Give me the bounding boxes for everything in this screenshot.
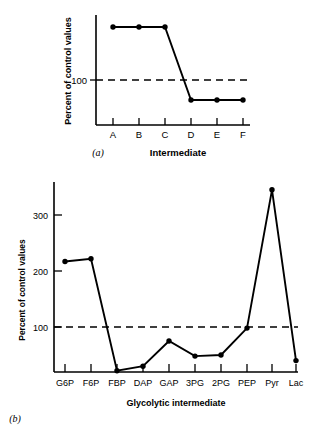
panel-a-label: (a): [92, 147, 104, 159]
panel-b-x-axis-title: Glycolytic intermediate: [126, 398, 225, 408]
panel-b-ytick-label-300: 300: [33, 211, 48, 221]
panel-a-data-point: [162, 24, 167, 29]
panel-b-data-point: [269, 187, 274, 192]
panel-b-xtick-label-PEP: PEP: [238, 378, 256, 388]
panel-b-xtick-label-G6P: G6P: [56, 378, 74, 388]
panel-a-data-point: [110, 24, 115, 29]
panel-a-data-line: [113, 27, 243, 100]
panel-a-xtick-label-B: B: [136, 129, 142, 140]
panel-a-x-axis-title: Intermediate: [150, 147, 207, 158]
panel-b-svg: Percent of control values 300 200 100: [0, 170, 323, 426]
panel-a-xtick-label-F: F: [240, 129, 246, 140]
chart-panel-b: Percent of control values 300 200 100: [0, 170, 323, 426]
panel-b-data-point: [140, 364, 145, 369]
panel-a-xtick-label-D: D: [188, 129, 195, 140]
panel-b-xtick-label-GAP: GAP: [159, 378, 178, 388]
panel-a-data-point: [214, 97, 219, 102]
chart-panel-a: Percent of control values 100 A B C D E …: [0, 0, 323, 170]
panel-a-svg: Percent of control values 100 A B C D E …: [0, 0, 323, 170]
panel-b-xtick-label-Lac: Lac: [289, 378, 304, 388]
panel-b-data-point: [244, 325, 249, 330]
panel-b-ytick-label-200: 200: [33, 267, 48, 277]
panel-a-data-point: [240, 97, 245, 102]
panel-b-ytick-label-100: 100: [33, 323, 48, 333]
panel-b-xtick-label-2PG: 2PG: [212, 378, 230, 388]
panel-b-data-point: [293, 358, 298, 363]
panel-a-ytick-label-100: 100: [71, 75, 87, 86]
panel-a-data-point: [136, 24, 141, 29]
panel-b-data-point: [192, 353, 197, 358]
panel-b-data-line: [65, 190, 296, 371]
figure-container: Percent of control values 100 A B C D E …: [0, 0, 323, 426]
panel-b-data-point: [88, 256, 93, 261]
panel-b-label: (b): [9, 413, 21, 425]
panel-b-xtick-label-DAP: DAP: [134, 378, 153, 388]
panel-a-xtick-label-C: C: [162, 129, 169, 140]
panel-b-xtick-label-F6P: F6P: [83, 378, 100, 388]
panel-a-data-point: [188, 97, 193, 102]
panel-a-y-axis-title: Percent of control values: [63, 17, 73, 125]
panel-b-data-point: [166, 338, 171, 343]
panel-b-xtick-label-Pyr: Pyr: [265, 378, 279, 388]
panel-a-xtick-label-E: E: [214, 129, 220, 140]
panel-b-data-point: [218, 352, 223, 357]
panel-b-xtick-label-FBP: FBP: [108, 378, 126, 388]
panel-b-data-point: [114, 368, 119, 373]
panel-b-xtick-label-3PG: 3PG: [186, 378, 204, 388]
panel-a-xtick-label-A: A: [110, 129, 117, 140]
panel-b-y-axis-title: Percent of control values: [17, 239, 27, 341]
panel-b-data-point: [62, 259, 67, 264]
